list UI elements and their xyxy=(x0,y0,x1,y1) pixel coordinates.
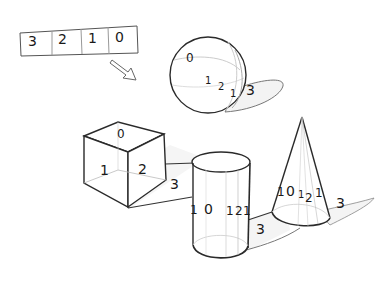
cone-core-shadow-label: 2 xyxy=(305,192,313,204)
legend-cell-1: 1 xyxy=(88,31,97,45)
arrow-icon xyxy=(110,60,136,80)
cylinder-core-shadow-label: 2 xyxy=(235,205,243,217)
sphere-reflected-label: 1 xyxy=(230,89,236,99)
sphere-halftone-label: 1 xyxy=(205,76,211,86)
sphere-highlight-label: 0 xyxy=(186,52,194,64)
sphere-core-shadow-label: 2 xyxy=(218,82,224,92)
cube xyxy=(84,122,166,207)
cone xyxy=(272,117,330,226)
cylinder-reflected-label: 1 xyxy=(243,205,251,217)
cylinder-highlight-label: 0 xyxy=(204,202,213,216)
cylinder-halftone-label: 1 xyxy=(226,205,234,217)
cone-cast-shadow-label: 3 xyxy=(336,196,345,210)
legend-cell-0: 0 xyxy=(115,30,124,44)
cube-left-label: 1 xyxy=(100,163,109,177)
legend-cell-2: 2 xyxy=(58,32,67,46)
sphere-cast-shadow-label: 3 xyxy=(246,83,255,97)
cube-right-label: 2 xyxy=(138,162,147,176)
light-value-diagram: 3 2 1 0 0 1 2 1 3 0 1 2 3 1 0 1 2 1 3 1 … xyxy=(0,0,386,287)
legend-cell-3: 3 xyxy=(28,34,37,48)
cone-edge-label: 1 xyxy=(277,186,285,198)
cube-cast-shadow-label: 3 xyxy=(170,177,179,191)
cone-reflected-label: 1 xyxy=(315,187,323,199)
cylinder-edge-label: 1 xyxy=(190,204,198,216)
cone-highlight-label: 0 xyxy=(286,184,295,198)
cylinder-cast-shadow-label: 3 xyxy=(256,222,265,236)
cube-top-label: 0 xyxy=(117,128,125,140)
cone-halftone-label: 1 xyxy=(298,190,304,200)
